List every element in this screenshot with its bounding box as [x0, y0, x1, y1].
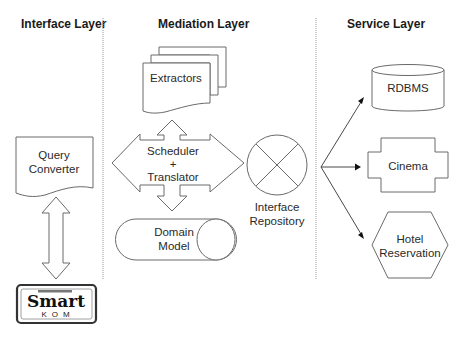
architecture-diagram: Interface Layer Mediation Layer Service … [0, 0, 464, 337]
four-way-arrow-icon [112, 120, 244, 211]
hotel-label-2: Reservation [379, 247, 440, 259]
cylinder-end-cap [197, 219, 235, 260]
hexagon-shape [372, 212, 448, 278]
domain-model-label-1: Domain [154, 226, 194, 238]
cylinder-top [372, 65, 444, 76]
extractors-label: Extractors [150, 72, 202, 84]
interface-repository-node: Interface Repository [247, 135, 307, 227]
domain-model-node: Domain Model [116, 219, 237, 260]
cinema-label: Cinema [388, 160, 428, 172]
cinema-node: Cinema [368, 138, 448, 192]
logo-kom-text: KOM [41, 310, 74, 319]
domain-model-label-2: Model [158, 240, 189, 252]
hotel-reservation-node: Hotel Reservation [372, 212, 448, 278]
rdbms-label: RDBMS [387, 82, 429, 94]
translator-label: Translator [147, 171, 199, 183]
mediation-layer-title: Mediation Layer [158, 17, 250, 31]
service-layer-title: Service Layer [347, 17, 425, 31]
hotel-label-1: Hotel [397, 233, 424, 245]
arrowhead-cinema-icon [355, 164, 361, 171]
scheduler-translator-node: Scheduler + Translator [112, 120, 244, 211]
smartkom-logo: Smart KOM [17, 285, 96, 323]
logo-smart-text: Smart [27, 291, 85, 311]
interface-repository-label-1: Interface [255, 201, 300, 213]
connector-to-rdbms [321, 102, 361, 167]
connector-to-hotel [321, 167, 361, 234]
query-converter-label-2: Converter [29, 163, 80, 175]
query-converter-label-1: Query [38, 149, 70, 161]
extractors-node: Extractors [143, 47, 226, 113]
scheduler-label: Scheduler [147, 145, 199, 157]
rdbms-node: RDBMS [372, 65, 444, 112]
arrowhead-rdbms-icon [358, 97, 364, 104]
query-converter-node: Query Converter [16, 137, 93, 196]
bidirectional-arrow-vertical-icon [42, 197, 70, 279]
interface-repository-label-2: Repository [250, 215, 305, 227]
arrowhead-hotel-icon [358, 232, 364, 239]
plus-label: + [170, 158, 177, 170]
service-connectors [321, 97, 364, 239]
interface-layer-title: Interface Layer [21, 17, 107, 31]
extractor-doc-front [143, 63, 210, 113]
